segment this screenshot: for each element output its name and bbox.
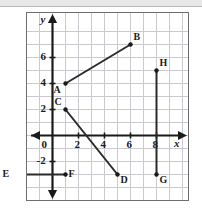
x-axis-label: x (174, 138, 180, 149)
point-label-D: D (121, 175, 128, 185)
top-edge-band (0, 0, 202, 7)
point-label-F: F (69, 169, 75, 179)
plot-svg (27, 13, 188, 200)
point-label-H: H (160, 58, 168, 68)
y-axis-arrow-up (48, 14, 57, 23)
point-label-E: E (3, 169, 10, 179)
segment-AB (66, 45, 131, 84)
y-tick-label--2: -2 (37, 155, 46, 166)
grid-lines (27, 13, 188, 200)
point-label-G: G (160, 175, 168, 185)
axes (31, 14, 187, 199)
x-axis-arrow-left (31, 131, 40, 140)
x-tick-label-8: 8 (153, 139, 159, 150)
point-H (154, 68, 158, 72)
point-G (154, 172, 158, 176)
y-tick-label-6: 6 (41, 51, 47, 62)
point-C (63, 107, 67, 111)
point-label-C: C (55, 97, 62, 107)
x-tick-label-2: 2 (75, 139, 81, 150)
point-label-B: B (134, 32, 141, 42)
point-label-A: A (54, 85, 61, 95)
x-tick-label-4: 4 (101, 139, 107, 150)
point-F (63, 172, 67, 176)
point-B (128, 42, 132, 46)
y-tick-label-2: 2 (41, 103, 47, 114)
point-A (63, 81, 67, 85)
y-tick-label-4: 4 (41, 77, 47, 88)
bottom-edge-band (0, 206, 202, 214)
figure-container: ABCDEFGH02468246-2xy (0, 0, 202, 214)
x-tick-label-0: 0 (42, 139, 48, 150)
y-axis-arrow-down (48, 190, 57, 199)
y-axis-label: y (41, 14, 46, 25)
x-tick-label-6: 6 (127, 139, 133, 150)
coordinate-plane (26, 12, 189, 201)
point-D (115, 172, 119, 176)
